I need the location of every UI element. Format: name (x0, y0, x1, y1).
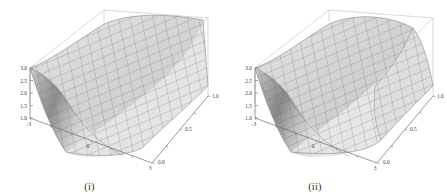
panel-caption-ii: (ii) (203, 181, 427, 192)
z-tick-label: 1.5 (245, 103, 252, 109)
plot-panel-ii: 3.0 2.5 2.0 1.5 1.0 -3 0 3 1.0 0.5 0.0 (223, 0, 447, 194)
z-tick-label: 2.5 (20, 78, 27, 84)
x-tick-label: -3 (27, 121, 32, 127)
surface-mesh-ii (255, 17, 433, 157)
y-tick-label: 1.0 (437, 93, 444, 99)
z-tick-label: 3.0 (245, 65, 252, 71)
x-tick-label: 0 (87, 143, 90, 149)
y-tick-label: 0.0 (383, 159, 390, 165)
z-tick-label: 2.0 (245, 90, 252, 96)
y-tick-label: 0.5 (185, 126, 192, 132)
surface-mesh-i (30, 15, 208, 157)
y-tick-label: 1.0 (212, 93, 219, 99)
plot-panel-i: 3.0 2.5 2.0 1.5 1.0 -3 0 3 1.0 0.5 0.0 (0, 0, 223, 194)
x-tick-label: 0 (312, 143, 315, 149)
x-tick-label: 3 (374, 165, 377, 171)
surface-plot-i: 3.0 2.5 2.0 1.5 1.0 -3 0 3 1.0 0.5 0.0 (0, 0, 223, 194)
z-tick-label: 2.5 (245, 78, 252, 84)
z-axis-i: 3.0 2.5 2.0 1.5 1.0 (20, 65, 33, 121)
y-tick-label: 0.5 (410, 126, 417, 132)
surface-plot-ii: 3.0 2.5 2.0 1.5 1.0 -3 0 3 1.0 0.5 0.0 (223, 0, 447, 194)
y-tick-label: 0.0 (158, 159, 165, 165)
z-tick-label: 2.0 (20, 90, 27, 96)
figure-container: 3.0 2.5 2.0 1.5 1.0 -3 0 3 1.0 0.5 0.0 (0, 0, 447, 194)
z-axis-ii: 3.0 2.5 2.0 1.5 1.0 (245, 65, 258, 121)
panel-caption-i: (i) (0, 181, 201, 192)
z-tick-label: 1.5 (20, 103, 27, 109)
z-tick-label: 3.0 (20, 65, 27, 71)
x-tick-label: 3 (149, 165, 152, 171)
x-tick-label: -3 (252, 121, 257, 127)
